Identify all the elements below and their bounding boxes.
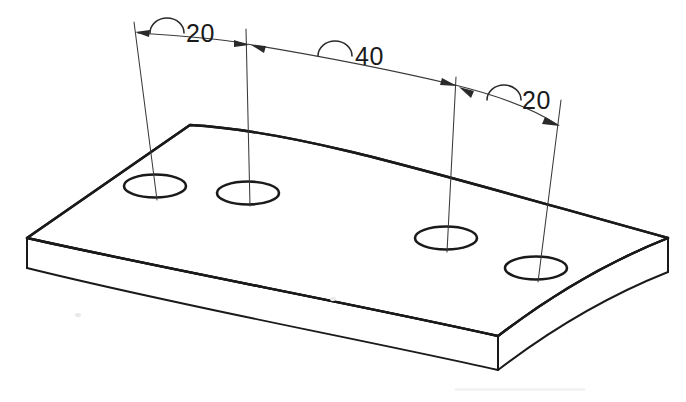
arrowhead-40-start	[251, 45, 266, 53]
paper-smudge-center	[330, 297, 336, 301]
extension-line-hole-1	[134, 22, 157, 200]
arrowhead-40-end	[440, 78, 457, 86]
hole-4	[505, 257, 567, 280]
extension-line-hole-4	[538, 100, 561, 282]
arrowhead-right-20-start	[459, 87, 474, 98]
paper-smudge-bottom	[455, 388, 585, 391]
arc-length-symbol-left-20	[150, 18, 184, 33]
plate-front-face	[27, 238, 498, 370]
dimension-text-group: 20 40 20	[186, 19, 551, 114]
extension-line-hole-2	[246, 29, 250, 206]
curved-plate-isometric-drawing: 20 40 20	[0, 0, 686, 402]
paper-artifact-group	[75, 297, 585, 391]
plate-top-front-outline	[27, 238, 668, 336]
arrowhead-right-20-end	[542, 117, 560, 126]
arrowhead-left-20-start	[135, 30, 150, 37]
technical-drawing-canvas: 20 40 20	[0, 0, 686, 402]
hole-3	[415, 227, 477, 250]
hole-2	[217, 182, 279, 205]
dimension-value-40: 40	[355, 42, 384, 70]
dimension-value-right-20: 20	[522, 86, 551, 114]
plate-solid	[27, 125, 668, 370]
arc-length-symbol-40	[318, 41, 352, 56]
paper-smudge-left	[75, 313, 81, 317]
plate-top-outline	[27, 125, 668, 238]
arc-length-symbol-right-20	[487, 85, 521, 100]
dimension-value-left-20: 20	[186, 19, 215, 47]
